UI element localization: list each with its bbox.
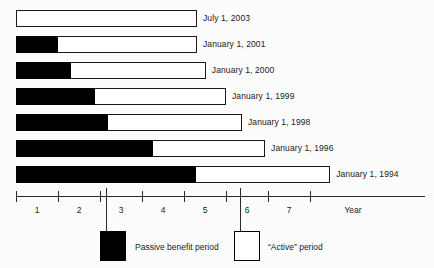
x-axis-title: Year bbox=[330, 205, 376, 215]
x-axis-tick-label: 2 bbox=[58, 205, 100, 215]
bar-passive-segment bbox=[16, 88, 95, 105]
legend-leader-line-passive bbox=[106, 188, 107, 232]
x-axis-tick bbox=[268, 191, 269, 202]
bar-row-label: January 1, 1999 bbox=[232, 89, 294, 104]
bar-passive-segment bbox=[16, 62, 71, 79]
legend-label-active: “Active” period bbox=[268, 241, 323, 253]
x-axis-tick bbox=[100, 191, 101, 202]
bar-active-segment bbox=[16, 10, 197, 27]
bar-row-label: January 1, 2000 bbox=[212, 63, 274, 78]
bar-row-label: January 1, 1994 bbox=[336, 167, 398, 182]
x-axis-tick-label: 4 bbox=[142, 205, 184, 215]
legend-leader-line-active bbox=[240, 188, 241, 232]
x-axis-tick-label: 6 bbox=[226, 205, 268, 215]
x-axis-tick bbox=[142, 191, 143, 202]
bar-row-label: January 1, 1998 bbox=[248, 115, 310, 130]
bar-row-label: January 1, 1996 bbox=[271, 141, 333, 156]
timeline-bar-chart: July 1, 2003 January 1, 2001 January 1, … bbox=[0, 0, 434, 268]
active-legend-swatch bbox=[234, 231, 260, 261]
bar-row-label: July 1, 2003 bbox=[203, 11, 250, 26]
x-axis-tick-label: 1 bbox=[16, 205, 58, 215]
x-axis-tick bbox=[58, 191, 59, 202]
bar-row-label: January 1, 2001 bbox=[203, 37, 265, 52]
bar-passive-segment bbox=[16, 140, 153, 157]
passive-legend-swatch bbox=[100, 231, 126, 261]
x-axis-line bbox=[16, 196, 425, 197]
bar-passive-segment bbox=[16, 166, 196, 183]
x-axis-tick-label: 5 bbox=[184, 205, 226, 215]
x-axis-tick bbox=[226, 191, 227, 202]
x-axis-tick-label: 7 bbox=[268, 205, 310, 215]
bar-passive-segment bbox=[16, 36, 58, 53]
x-axis-tick bbox=[16, 191, 17, 202]
legend-label-passive: Passive benefit period bbox=[135, 241, 219, 253]
x-axis-tick bbox=[184, 191, 185, 202]
bar-passive-segment bbox=[16, 114, 108, 131]
x-axis-tick bbox=[310, 191, 311, 202]
